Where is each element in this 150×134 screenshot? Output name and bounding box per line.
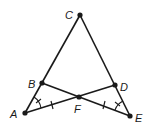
label-c: C [65,9,73,21]
segments [25,15,130,116]
label-f: F [74,103,82,115]
point-f [76,94,81,99]
point-a [22,110,27,115]
point-c [77,12,82,17]
segment-tick-ef [103,101,105,109]
label-d: D [120,81,128,93]
geometry-diagram: C B D F A E [0,0,150,134]
label-b: B [28,78,35,90]
point-d [112,82,117,87]
label-a: A [9,108,17,120]
label-e: E [135,112,143,124]
point-b [39,80,44,85]
point-e [127,113,132,118]
